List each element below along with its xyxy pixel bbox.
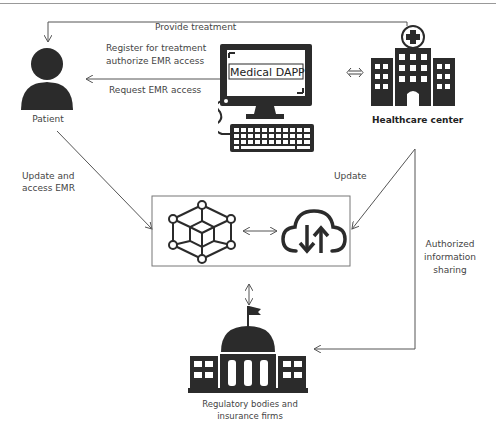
update-access-label-2: access EMR [22,182,75,194]
provide-treatment-label: Provide treatment [155,21,236,33]
medical-dapp-label: Medical DAPP [230,66,305,79]
edge-update [352,149,415,229]
update-access-label-1: Update and [22,170,74,182]
authorized-sharing-label-2: information [420,251,480,263]
regulatory-node [188,302,308,394]
healthcare-center-node [367,24,459,108]
blockchain-network-icon [163,199,241,265]
healthcare-center-label: Healthcare center [372,114,463,126]
patient-label: Patient [24,113,72,125]
regulatory-label-1: Regulatory bodies and [188,398,312,410]
update-label: Update [334,170,367,182]
person-icon [17,46,77,112]
dapp-hospital-link [347,68,363,77]
register-label-1: Register for treatment [106,42,206,54]
desktop-computer-icon [218,42,338,154]
request-emr-label: Request EMR access [109,84,201,96]
cloud-sync-icon [280,207,348,257]
blockchain-node [163,199,241,265]
medical-dapp-node [218,42,338,154]
authorized-sharing-label-3: sharing [420,264,480,276]
regulatory-label-2: insurance firms [188,410,312,422]
register-label-2: authorize EMR access [106,55,204,67]
cloud-node [280,207,348,257]
authorized-sharing-label-1: Authorized [420,238,480,250]
hospital-icon [367,24,459,108]
patient-node [17,46,77,112]
government-building-icon [188,302,308,394]
